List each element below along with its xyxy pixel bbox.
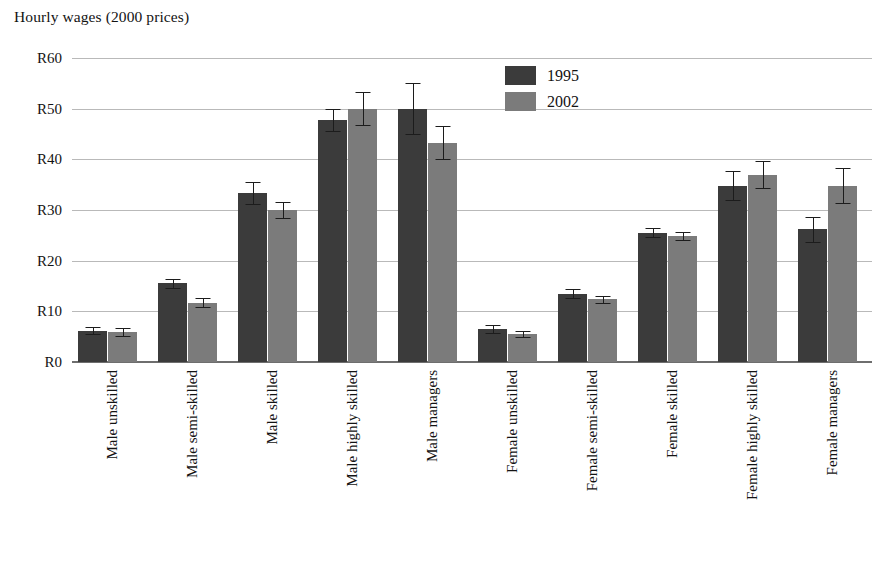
error-bar-cap <box>85 334 100 335</box>
error-bar <box>443 126 444 159</box>
bar[interactable] <box>428 143 457 362</box>
bar[interactable] <box>508 334 537 362</box>
bar[interactable] <box>798 229 827 362</box>
error-bar-cap <box>595 296 610 297</box>
x-label-slot: Female semi-skilled <box>552 366 632 571</box>
legend-item[interactable]: 2002 <box>505 92 579 111</box>
error-bar <box>413 83 414 134</box>
error-bar-cap <box>805 242 820 243</box>
error-bar-cap <box>515 337 530 338</box>
y-tick-label: R50 <box>37 101 62 116</box>
legend-label: 1995 <box>547 68 579 84</box>
error-bar-cap <box>565 298 580 299</box>
bar-group <box>232 58 312 362</box>
error-bar <box>123 328 124 336</box>
legend: 19952002 <box>505 66 579 111</box>
x-tick-label: Male semi-skilled <box>184 370 201 478</box>
bar[interactable] <box>268 210 297 362</box>
error-bar-cap <box>595 303 610 304</box>
y-tick-label: R60 <box>37 51 62 66</box>
legend-item[interactable]: 1995 <box>505 66 579 85</box>
error-bar-cap <box>195 307 210 308</box>
bar[interactable] <box>238 193 267 362</box>
x-label-slot: Male skilled <box>232 366 312 571</box>
error-bar <box>93 327 94 334</box>
error-bar <box>173 279 174 287</box>
error-bar <box>653 228 654 237</box>
error-bar <box>683 232 684 240</box>
bar-group <box>792 58 872 362</box>
error-bar <box>203 298 204 307</box>
error-bar-cap <box>675 232 690 233</box>
bar[interactable] <box>638 233 667 362</box>
error-bar-cap <box>435 126 450 127</box>
x-label-slot: Male managers <box>392 366 472 571</box>
x-tick-label: Female highly skilled <box>744 370 761 500</box>
error-bar-cap <box>435 159 450 160</box>
bar[interactable] <box>188 303 217 362</box>
error-bar <box>733 171 734 199</box>
y-tick-label: R0 <box>44 355 62 370</box>
error-bar-cap <box>405 134 420 135</box>
error-bar <box>573 289 574 298</box>
error-bar-cap <box>275 218 290 219</box>
error-bar-cap <box>675 240 690 241</box>
error-bar-cap <box>245 182 260 183</box>
legend-label: 2002 <box>547 94 579 110</box>
error-bar-cap <box>835 203 850 204</box>
x-tick-label: Female skilled <box>664 370 681 458</box>
bar-groups <box>72 58 872 362</box>
bar-group <box>152 58 232 362</box>
bar[interactable] <box>398 109 427 362</box>
bar-group <box>72 58 152 362</box>
error-bar-cap <box>485 333 500 334</box>
x-axis-labels: Male unskilledMale semi-skilledMale skil… <box>72 366 872 571</box>
x-tick-label: Male unskilled <box>104 370 121 460</box>
bar-group <box>712 58 792 362</box>
bar[interactable] <box>78 331 107 362</box>
x-tick-label: Female unskilled <box>504 370 521 473</box>
error-bar-cap <box>805 217 820 218</box>
x-label-slot: Male semi-skilled <box>152 366 232 571</box>
bar[interactable] <box>668 236 697 362</box>
error-bar <box>763 161 764 187</box>
bar[interactable] <box>158 283 187 362</box>
error-bar-cap <box>755 188 770 189</box>
error-bar-cap <box>645 228 660 229</box>
error-bar-cap <box>725 200 740 201</box>
bar-group <box>312 58 392 362</box>
error-bar-cap <box>565 289 580 290</box>
error-bar-cap <box>165 279 180 280</box>
x-tick-label: Male skilled <box>264 370 281 445</box>
x-label-slot: Female skilled <box>632 366 712 571</box>
error-bar-cap <box>645 237 660 238</box>
bar[interactable] <box>718 186 747 362</box>
error-bar-cap <box>325 109 340 110</box>
bar[interactable] <box>348 109 377 362</box>
error-bar-cap <box>355 125 370 126</box>
bar-group <box>392 58 472 362</box>
y-tick-label: R10 <box>37 304 62 319</box>
error-bar-cap <box>355 92 370 93</box>
plot-area <box>72 58 872 362</box>
error-bar <box>253 182 254 204</box>
x-label-slot: Male highly skilled <box>312 366 392 571</box>
error-bar-cap <box>405 83 420 84</box>
error-bar-cap <box>755 161 770 162</box>
error-bar-cap <box>165 288 180 289</box>
bar[interactable] <box>588 299 617 362</box>
error-bar <box>843 168 844 202</box>
y-tick-label: R30 <box>37 203 62 218</box>
bar[interactable] <box>828 186 857 362</box>
error-bar-cap <box>85 327 100 328</box>
error-bar <box>333 109 334 131</box>
error-bar-cap <box>725 171 740 172</box>
error-bar <box>603 296 604 303</box>
bar-chart: Hourly wages (2000 prices) R60R50R40R30R… <box>0 0 884 581</box>
error-bar <box>813 217 814 242</box>
x-label-slot: Female highly skilled <box>712 366 792 571</box>
bar[interactable] <box>748 175 777 362</box>
x-label-slot: Male unskilled <box>72 366 152 571</box>
bar[interactable] <box>318 120 347 362</box>
bar[interactable] <box>558 294 587 362</box>
